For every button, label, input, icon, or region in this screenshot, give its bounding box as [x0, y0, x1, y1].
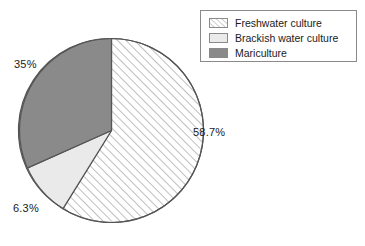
light-gray-swatch-icon — [209, 33, 228, 43]
chart-legend: Freshwater culture Brackish water cultur… — [200, 10, 357, 62]
legend-label-mariculture: Mariculture — [235, 48, 287, 59]
slice-label-mariculture: 35% — [14, 58, 37, 70]
slice-label-freshwater-culture: 58.7% — [193, 126, 225, 138]
legend-item-mariculture: Mariculture — [209, 46, 356, 60]
dark-gray-swatch-icon — [209, 48, 228, 58]
legend-item-brackish-water-culture: Brackish water culture — [209, 31, 356, 45]
hatch-swatch-icon — [209, 18, 228, 28]
pie-chart-screenshot: 35% 6.3% 58.7% Freshwater culture Bracki… — [0, 0, 365, 246]
slice-label-brackish-water-culture: 6.3% — [13, 202, 39, 214]
legend-item-freshwater-culture: Freshwater culture — [209, 16, 356, 30]
legend-label-freshwater-culture: Freshwater culture — [235, 18, 322, 29]
legend-label-brackish-water-culture: Brackish water culture — [235, 33, 338, 44]
